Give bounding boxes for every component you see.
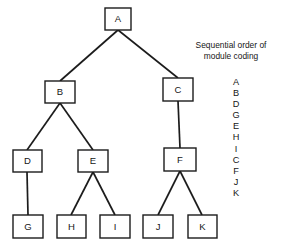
tree-edge-f-j <box>158 171 180 215</box>
legend-sequence-item-1: A <box>228 77 244 88</box>
legend-sequence-item-10: J <box>228 177 244 188</box>
tree-node-g[interactable]: G <box>13 215 43 238</box>
tree-node-e[interactable]: E <box>78 150 108 172</box>
legend-sequence-item-4: G <box>228 110 244 121</box>
tree-node-b[interactable]: B <box>45 81 75 103</box>
legend-sequence-item-11: K <box>228 188 244 199</box>
tree-node-label-i: I <box>114 221 117 232</box>
tree-edge-a-b <box>60 30 118 81</box>
tree-node-label-b: B <box>57 86 63 97</box>
tree-edge-a-c <box>118 30 178 78</box>
tree-edge-e-h <box>71 172 93 215</box>
tree-edge-f-k <box>180 171 202 215</box>
tree-node-a[interactable]: A <box>105 8 131 30</box>
tree-edge-d-g <box>27 172 28 215</box>
tree-node-label-e: E <box>90 155 96 166</box>
legend-sequence-item-7: I <box>228 144 244 155</box>
tree-node-d[interactable]: D <box>13 150 42 172</box>
legend-sequence-item-3: D <box>228 99 244 110</box>
legend-sequence-list: ABDGEHICFJK <box>228 77 244 199</box>
tree-node-label-j: J <box>156 221 161 232</box>
tree-node-label-g: G <box>24 221 31 232</box>
legend-caption: Sequential order of module coding <box>184 40 278 62</box>
legend-caption-line-1: Sequential order of <box>184 40 278 51</box>
tree-edges-group <box>27 30 202 215</box>
module-hierarchy-diagram: ABCDEFGHIJK Sequential order of module c… <box>0 0 282 248</box>
legend-sequence-item-5: E <box>228 121 244 132</box>
legend-panel: Sequential order of module coding ABDGEH… <box>184 40 282 62</box>
tree-edge-c-f <box>178 101 180 148</box>
legend-sequence-item-2: B <box>228 88 244 99</box>
tree-node-label-c: C <box>175 84 182 95</box>
tree-node-label-h: H <box>68 221 75 232</box>
tree-node-c[interactable]: C <box>163 78 193 101</box>
tree-node-k[interactable]: K <box>188 215 217 238</box>
tree-node-i[interactable]: I <box>100 215 130 238</box>
legend-sequence-item-9: F <box>228 166 244 177</box>
legend-sequence-item-8: C <box>228 155 244 166</box>
tree-edge-b-d <box>27 103 60 150</box>
tree-edge-e-i <box>93 172 115 215</box>
tree-node-j[interactable]: J <box>143 215 173 238</box>
tree-node-label-f: F <box>177 154 183 165</box>
tree-edge-b-e <box>60 103 93 150</box>
tree-node-label-d: D <box>24 155 31 166</box>
tree-node-label-k: K <box>199 221 206 232</box>
legend-sequence-item-6: H <box>228 132 244 143</box>
tree-node-h[interactable]: H <box>57 215 86 238</box>
tree-node-label-a: A <box>115 13 122 24</box>
tree-node-f[interactable]: F <box>164 148 196 171</box>
legend-caption-line-2: module coding <box>184 51 278 62</box>
